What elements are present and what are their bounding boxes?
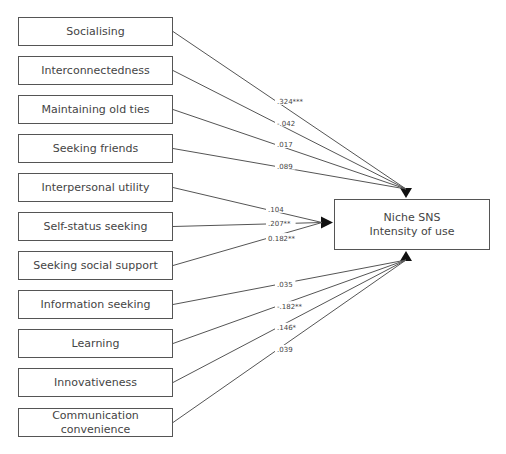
predictor-box: Seeking friends: [18, 134, 173, 163]
predictor-label: Socialising: [66, 25, 124, 39]
path-coefficient: -.042: [277, 120, 295, 128]
path-coefficient: .017: [277, 141, 293, 149]
arrowhead-icon: [400, 188, 412, 198]
path-diagram: .324***-.042.017.089.104.207**0.182**.03…: [0, 0, 506, 454]
path-connector: [173, 223, 322, 266]
predictor-box: Learning: [18, 329, 173, 358]
predictor-box: Maintaining old ties: [18, 95, 173, 124]
path-coefficient: .324***: [277, 98, 304, 106]
predictor-box: Information seeking: [18, 290, 173, 319]
path-connector: [173, 260, 406, 383]
path-coefficient: .035: [277, 281, 293, 289]
path-coefficient: .146*: [277, 324, 297, 332]
arrowhead-icon: [400, 251, 412, 261]
arrowhead-icon: [321, 217, 333, 229]
path-coefficient: -.182**: [277, 303, 303, 311]
target-label-line1: Niche SNS: [384, 211, 441, 225]
predictor-box: Self-status seeking: [18, 212, 173, 241]
predictor-box: Seeking social support: [18, 251, 173, 280]
predictor-label: Learning: [72, 337, 120, 351]
target-label-line2: Intensity of use: [370, 225, 455, 239]
predictor-box: Interconnectedness: [18, 56, 173, 85]
path-coefficient: 0.182**: [268, 235, 296, 243]
predictor-box: Socialising: [18, 17, 173, 46]
predictor-box: Interpersonal utility: [18, 173, 173, 202]
path-connector: [173, 188, 322, 223]
path-coefficient: .104: [268, 206, 284, 214]
path-coefficient: .089: [277, 163, 293, 171]
path-connector: [173, 71, 406, 190]
predictor-box: Innovativeness: [18, 368, 173, 397]
path-coefficient: .039: [277, 346, 293, 354]
predictor-label: Seeking social support: [33, 259, 158, 273]
path-coefficient: .207**: [268, 220, 291, 228]
predictor-label: Communication convenience: [36, 409, 156, 437]
predictor-label: Innovativeness: [54, 376, 137, 390]
predictor-label: Maintaining old ties: [42, 103, 150, 117]
predictor-label: Interconnectedness: [41, 64, 149, 78]
predictor-label: Interpersonal utility: [41, 181, 149, 195]
predictor-label: Seeking friends: [53, 142, 138, 156]
predictor-box: Communication convenience: [18, 408, 173, 437]
predictor-label: Information seeking: [41, 298, 151, 312]
predictor-label: Self-status seeking: [44, 220, 148, 234]
target-box-niche-sns: Niche SNS Intensity of use: [334, 199, 490, 250]
path-connector: [173, 223, 322, 227]
